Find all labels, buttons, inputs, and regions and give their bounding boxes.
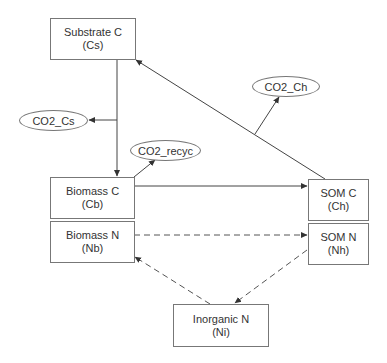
node-symbol: (Nb)	[82, 242, 103, 255]
node-symbol: (Cs)	[83, 39, 104, 52]
edge-biomass-to-co2-recyc	[134, 160, 155, 177]
node-symbol: (Cb)	[82, 198, 103, 211]
edge-som-n-to-inorganic	[235, 250, 307, 303]
output-co2-cs: CO2_Cs	[19, 110, 88, 131]
node-symbol: (Ch)	[328, 200, 349, 213]
output-label: CO2_Cs	[32, 115, 74, 127]
node-inorganic-n: Inorganic N (Ni)	[173, 304, 269, 347]
node-label: Biomass N	[66, 229, 119, 242]
output-label: CO2_Ch	[265, 81, 308, 93]
node-label: Substrate C	[64, 26, 122, 39]
edge-inorganic-to-biomass-n	[135, 257, 210, 304]
edge-som-c-to-co2-ch	[255, 97, 279, 134]
node-substrate-c: Substrate C (Cs)	[50, 18, 136, 60]
node-biomass-n: Biomass N (Nb)	[50, 221, 135, 263]
node-biomass-c: Biomass C (Cb)	[50, 177, 135, 219]
node-label: SOM C	[320, 187, 356, 200]
output-co2-recyc: CO2_recyc	[130, 140, 201, 161]
node-som-n: SOM N (Nh)	[308, 223, 369, 265]
node-label: SOM N	[320, 231, 356, 244]
node-som-c: SOM C (Ch)	[308, 179, 369, 221]
node-symbol: (Nh)	[328, 244, 349, 257]
node-label: Biomass C	[66, 185, 119, 198]
node-label: Inorganic N	[193, 313, 249, 326]
node-symbol: (Ni)	[212, 326, 230, 339]
output-label: CO2_recyc	[138, 145, 193, 157]
output-co2-ch: CO2_Ch	[252, 76, 320, 97]
